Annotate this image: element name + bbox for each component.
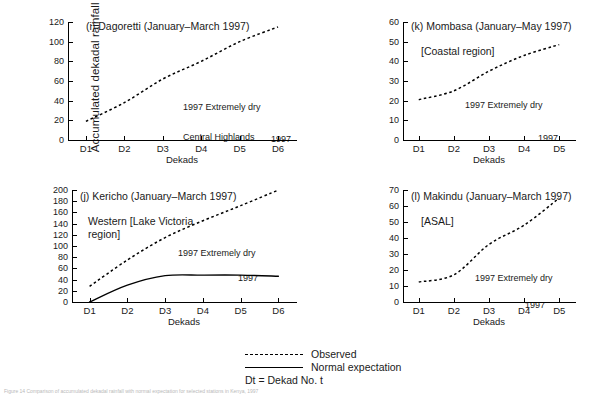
legend-label-observed: Observed [311,348,357,360]
series-observed [86,27,278,121]
legend-label-normal: Normal expectation [311,361,401,373]
plot-curves [375,12,590,162]
series-observed [90,190,279,286]
panel-dagoretti: (i) Dagoretti (January–March 1997) 1997 … [38,12,308,162]
series-normal-expectation [90,275,279,302]
series-observed [419,45,559,100]
plot-curves [375,182,590,327]
plot-curves [38,12,308,162]
legend-row-observed: Observed [245,348,475,361]
legend-note: Dt = Dekad No. t [245,374,323,386]
panel-mombasa: (k) Mombasa (January–May 1997) [Coastal … [375,12,590,162]
plot-curves [38,182,308,327]
figure-root: Accumulated dekadal rainfall mm (i) Dago… [0,0,614,395]
legend-row-normal: Normal expectation [245,361,475,374]
series-observed [419,198,559,282]
legend: Observed Normal expectation Dt = Dekad N… [245,348,475,374]
panel-makindu: (l) Makindu (January–March 1997) [ASAL] … [375,182,590,327]
figure-caption: Figure 14 Comparison of accumulated deka… [4,388,258,394]
panel-kericho: (j) Kericho (January–March 1997) Western… [38,182,308,327]
solid-line-icon [245,367,303,368]
dashed-line-icon [245,354,303,355]
